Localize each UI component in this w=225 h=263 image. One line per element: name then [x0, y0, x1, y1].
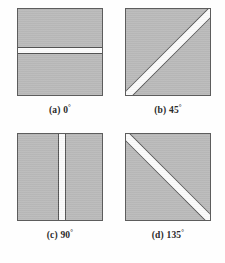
figure-container: (a) 0° (b) 45° (c) 90°	[0, 0, 225, 263]
texture-tile-d	[125, 133, 211, 221]
caption-a-tag: (a)	[49, 105, 61, 115]
caption-c: (c) 90°	[12, 230, 108, 241]
caption-c-tag: (c)	[47, 230, 58, 240]
caption-b-angle: 45	[169, 105, 179, 115]
caption-a: (a) 0°	[12, 105, 108, 116]
tile-wrap-b	[125, 8, 211, 96]
panel-c: (c) 90°	[12, 133, 108, 241]
panel-d: (d) 135°	[120, 133, 216, 241]
tile-wrap-c	[17, 133, 103, 221]
stripe-horizontal-0deg	[17, 47, 103, 54]
degree-symbol-icon-b: °	[179, 103, 182, 111]
stripe-diagonal-45deg	[125, 8, 211, 96]
stripe-diagonal-135deg	[125, 133, 211, 221]
tile-wrap-d	[125, 133, 211, 221]
caption-c-angle: 90	[60, 230, 70, 240]
panel-b: (b) 45°	[120, 8, 216, 116]
degree-symbol-icon-a: °	[68, 103, 71, 111]
caption-d-tag: (d)	[152, 230, 164, 240]
degree-symbol-icon-c: °	[70, 228, 73, 236]
texture-tile-c	[17, 133, 103, 221]
caption-b: (b) 45°	[120, 105, 216, 116]
tile-wrap-a	[17, 8, 103, 96]
caption-b-tag: (b)	[154, 105, 166, 115]
degree-symbol-icon-d: °	[181, 228, 184, 236]
caption-d-angle: 135	[166, 230, 181, 240]
panel-a: (a) 0°	[12, 8, 108, 116]
caption-d: (d) 135°	[120, 230, 216, 241]
stripe-vertical-90deg	[58, 133, 66, 221]
texture-tile-b	[125, 8, 211, 96]
texture-tile-a	[17, 8, 103, 96]
